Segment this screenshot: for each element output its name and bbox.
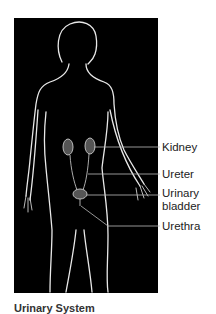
head-outline <box>58 22 96 64</box>
left-torso-outline <box>45 112 53 292</box>
urinary-bladder-label-line2: bladder <box>162 200 200 212</box>
right-arm-outline <box>110 110 140 186</box>
left-ureter <box>70 155 77 190</box>
urinary-bladder <box>73 189 87 199</box>
right-kidney <box>85 138 95 154</box>
urethra-leader-line <box>81 206 160 226</box>
inner-left-leg-outline <box>66 230 76 292</box>
urethra-label: Urethra <box>162 220 200 232</box>
right-hand-outline <box>136 184 150 200</box>
kidney-label: Kidney <box>162 141 197 153</box>
inner-right-leg-outline <box>84 230 92 292</box>
right-torso-outline <box>102 112 108 292</box>
figure-caption: Urinary System <box>14 302 95 314</box>
urinary-bladder-label-line1: Urinary <box>162 187 199 199</box>
left-kidney <box>63 139 73 155</box>
right-ureter <box>83 154 89 190</box>
ureter-label: Ureter <box>162 168 194 180</box>
right-shoulder-outline <box>86 64 144 184</box>
